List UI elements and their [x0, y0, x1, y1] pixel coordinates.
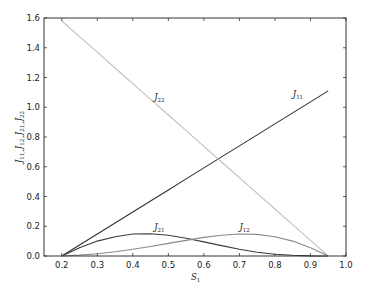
line-chart: 0.20.30.40.50.60.70.80.91.00.00.20.40.60… [0, 0, 369, 290]
y-tick-label: 0.4 [26, 192, 40, 202]
curve-labels: J11J22J21J12 [152, 89, 303, 233]
x-tick-label: 0.5 [162, 260, 176, 270]
x-tick-label: 0.7 [233, 260, 247, 270]
label-j21: J21 [152, 222, 164, 233]
label-j11: J11 [291, 89, 303, 100]
x-tick-label: 0.6 [197, 260, 211, 270]
x-tick-label: 0.9 [304, 260, 318, 270]
curves [62, 21, 328, 256]
x-tick-label: 0.3 [91, 260, 105, 270]
y-tick-label: 1.4 [26, 43, 40, 53]
y-tick-label: 1.2 [26, 73, 40, 83]
label-j22: J22 [152, 92, 164, 103]
y-tick-label: 0.2 [26, 221, 40, 231]
y-tick-label: 0.8 [26, 132, 40, 142]
label-j12: J12 [237, 222, 249, 233]
y-axis-label: J11, J12, J21, J22 [14, 111, 25, 165]
y-tick-label: 1.0 [26, 102, 40, 112]
axis-ticks: 0.20.30.40.50.60.70.80.91.00.00.20.40.60… [26, 13, 352, 270]
axis-labels: S1J11, J12, J21, J22 [14, 111, 200, 283]
x-axis-label: S1 [191, 272, 200, 283]
x-tick-label: 0.8 [268, 260, 282, 270]
x-tick-label: 0.4 [126, 260, 140, 270]
curve-j11 [62, 91, 328, 256]
curve-j21 [62, 234, 328, 256]
curve-j22 [62, 21, 328, 256]
curve-j12 [62, 234, 328, 256]
y-tick-label: 0.0 [26, 251, 40, 261]
x-tick-label: 1.0 [339, 260, 353, 270]
y-tick-label: 1.6 [26, 13, 40, 23]
plot-frame [44, 18, 346, 256]
x-tick-label: 0.2 [55, 260, 69, 270]
chart-canvas: 0.20.30.40.50.60.70.80.91.00.00.20.40.60… [0, 0, 369, 290]
y-tick-label: 0.6 [26, 162, 40, 172]
